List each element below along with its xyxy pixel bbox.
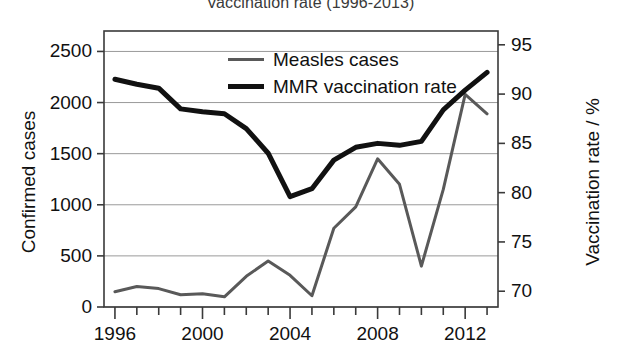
legend-item[interactable]: MMR vaccination rate <box>228 73 457 100</box>
legend-swatch-line-icon <box>228 58 264 61</box>
legend-item-label: Measles cases <box>273 49 399 71</box>
legend-item[interactable]: Measles cases <box>228 46 457 73</box>
legend-item-label: MMR vaccination rate <box>273 76 457 98</box>
chart-figure: Vaccination rate (1996-2013) Confirmed c… <box>0 0 621 355</box>
chart-legend: Measles casesMMR vaccination rate <box>228 46 457 100</box>
legend-swatch-line-icon <box>228 84 264 89</box>
